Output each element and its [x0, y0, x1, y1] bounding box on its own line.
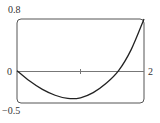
y-min-label: −0.5	[2, 106, 20, 116]
function-curve	[17, 19, 144, 99]
x-max-label: 2	[148, 67, 153, 77]
chart-canvas	[0, 0, 160, 123]
x-min-label: 0	[7, 67, 12, 77]
y-max-label: 0.8	[8, 5, 21, 15]
